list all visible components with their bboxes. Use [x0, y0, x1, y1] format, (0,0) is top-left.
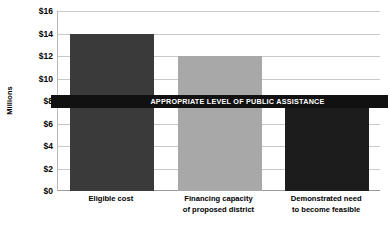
- y-tick-label: $2: [18, 164, 53, 173]
- category-label: Eligible cost: [57, 194, 165, 205]
- y-tick-label: $0: [18, 187, 53, 196]
- y-tick-label: $14: [18, 29, 53, 38]
- y-axis-tick-labels: $16$14$12$10$8$6$4$2$0: [18, 11, 53, 191]
- y-tick-label: $6: [18, 119, 53, 128]
- category-label: Financing capacityof proposed district: [165, 194, 273, 215]
- bar: [70, 34, 154, 192]
- category-label-line1: Demonstrated need: [291, 194, 362, 203]
- x-axis-category-labels: Eligible costFinancing capacityof propos…: [57, 194, 380, 225]
- y-tick-label: $4: [18, 142, 53, 151]
- y-tick-label: $8: [18, 97, 53, 106]
- y-tick-label: $16: [18, 7, 53, 16]
- category-label-line2: of proposed district: [165, 205, 273, 216]
- threshold-banner: APPROPRIATE LEVEL OF PUBLIC ASSISTANCE: [51, 95, 388, 108]
- plot-area: APPROPRIATE LEVEL OF PUBLIC ASSISTANCE: [57, 11, 380, 191]
- y-tick-label: $10: [18, 74, 53, 83]
- bar: [178, 56, 262, 191]
- y-tick-label: $12: [18, 52, 53, 61]
- category-label-line2: to become feasible: [272, 205, 380, 216]
- category-label-line1: Financing capacity: [184, 194, 252, 203]
- category-label-line1: Eligible cost: [88, 194, 133, 203]
- category-label: Demonstrated needto become feasible: [272, 194, 380, 215]
- threshold-banner-label: APPROPRIATE LEVEL OF PUBLIC ASSISTANCE: [150, 97, 324, 106]
- bar: [285, 101, 369, 191]
- y-axis-title: Millions: [5, 71, 14, 131]
- bar-chart: Millions $16$14$12$10$8$6$4$2$0 APPROPRI…: [0, 0, 390, 225]
